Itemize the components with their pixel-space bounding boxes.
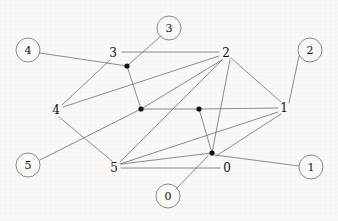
plain-node-label: 2 (222, 46, 230, 60)
graph-edge (212, 60, 230, 153)
vertex-dot[interactable] (138, 106, 143, 111)
graph-edge (216, 114, 281, 156)
plain-node-label: 1 (280, 101, 288, 115)
plain-node-label: 3 (109, 46, 117, 60)
graph-svg: 432501 324150 (0, 0, 338, 221)
circled-node[interactable]: 4 (16, 38, 40, 62)
plain-node-label: 4 (52, 103, 60, 117)
graph-edge (141, 60, 222, 109)
circled-node[interactable]: 5 (16, 153, 40, 177)
graph-edge (127, 36, 161, 66)
graph-edge (121, 153, 212, 164)
graph-edge (59, 117, 112, 161)
graph-edge (63, 56, 219, 107)
vertex-dot[interactable] (124, 63, 129, 68)
edges-layer (40, 36, 299, 189)
circled-node[interactable]: 1 (299, 155, 323, 179)
circled-node[interactable]: 0 (156, 184, 180, 208)
graph-edge (199, 109, 212, 153)
circled-node-label: 1 (308, 161, 315, 174)
circled-node[interactable]: 3 (157, 16, 181, 40)
graph-edge (120, 60, 222, 162)
plain-labels-layer: 324150 (52, 46, 288, 175)
plain-node-label: 0 (223, 161, 231, 175)
graph-edge (176, 156, 208, 189)
circled-node-label: 0 (165, 190, 172, 203)
vertex-dot[interactable] (196, 106, 201, 111)
vertex-dots-layer (124, 63, 214, 155)
circled-node-label: 2 (307, 44, 314, 57)
circled-node-label: 4 (25, 44, 32, 57)
vertex-dot[interactable] (209, 150, 214, 155)
graph-edge (289, 56, 299, 103)
graph-edge (62, 60, 110, 105)
plain-node-label: 5 (110, 161, 118, 175)
diagram-canvas: 432501 324150 (0, 0, 338, 221)
graph-edge (127, 66, 141, 109)
circled-node-label: 3 (166, 22, 173, 35)
graph-edge (231, 58, 281, 102)
graph-edge (199, 108, 278, 109)
circled-node[interactable]: 2 (298, 38, 322, 62)
circled-node-label: 5 (25, 159, 32, 172)
